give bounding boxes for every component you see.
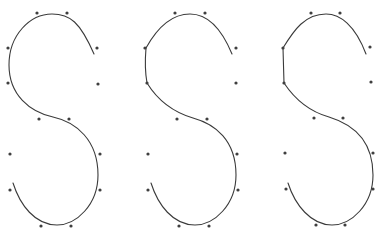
control-point	[69, 224, 72, 227]
control-point	[177, 224, 180, 227]
control-point	[203, 11, 206, 14]
control-point	[143, 46, 146, 49]
control-point	[8, 152, 11, 155]
control-point	[284, 187, 287, 190]
control-point	[312, 116, 315, 119]
control-point	[65, 11, 68, 14]
control-point	[235, 152, 238, 155]
s-curve-diagram	[0, 0, 380, 236]
control-point	[6, 46, 9, 49]
shape-corner	[143, 11, 239, 227]
control-point	[283, 151, 286, 154]
control-point	[207, 224, 210, 227]
control-point	[98, 152, 101, 155]
control-point	[309, 11, 312, 14]
control-point	[6, 81, 9, 84]
control-point	[236, 188, 239, 191]
control-point	[146, 188, 149, 191]
bezier-curve	[145, 14, 236, 225]
control-point	[35, 11, 38, 14]
control-point	[173, 11, 176, 14]
control-point	[96, 82, 99, 85]
control-point	[282, 81, 285, 84]
control-point	[371, 151, 374, 154]
control-point	[8, 188, 11, 191]
control-point	[146, 152, 149, 155]
shape-straight	[281, 11, 374, 226]
control-point	[145, 81, 148, 84]
bezier-curve	[9, 14, 98, 225]
bezier-curve	[283, 14, 373, 225]
control-point	[37, 117, 40, 120]
control-point	[39, 224, 42, 227]
control-point	[341, 116, 344, 119]
control-point	[314, 223, 317, 226]
control-point	[205, 117, 208, 120]
control-point	[234, 46, 237, 49]
control-point	[234, 81, 237, 84]
control-point	[281, 46, 284, 49]
control-point	[175, 117, 178, 120]
control-point	[338, 11, 341, 14]
control-point	[343, 223, 346, 226]
shape-smooth	[6, 11, 101, 227]
control-point	[369, 80, 372, 83]
control-point	[98, 188, 101, 191]
control-point	[368, 45, 371, 48]
control-point	[67, 117, 70, 120]
control-point	[371, 187, 374, 190]
control-point	[95, 46, 98, 49]
